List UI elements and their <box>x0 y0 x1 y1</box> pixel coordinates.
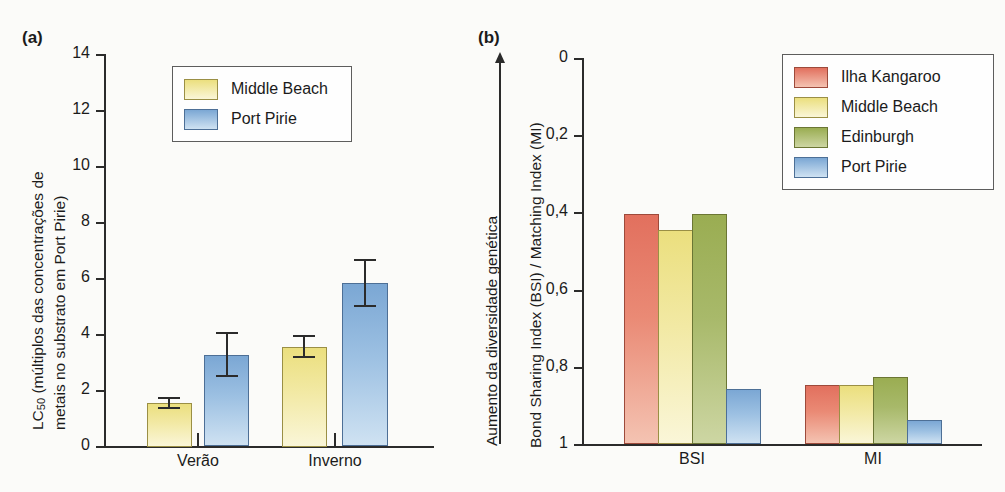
legend-label-port-pirie: Port Pirie <box>231 110 297 128</box>
bar-mi-ilha-kangaroo <box>805 385 840 444</box>
legend-item-port-pirie[interactable]: Port Pirie <box>184 104 337 134</box>
bar-inverno-port-pirie <box>342 283 388 446</box>
panel-b-ytick-1 <box>574 444 583 446</box>
panel-a-ytick-2 <box>96 390 105 392</box>
panel-b-yticklabel-0.6: 0,6 <box>520 280 568 298</box>
bar-inverno-middle-beach <box>282 347 327 447</box>
panel-a-xticklabel-inverno: Inverno <box>285 452 385 470</box>
panel-a-yticklabel-10: 10 <box>54 156 90 174</box>
legend-item-ilha-kangaroo[interactable]: Ilha Kangaroo <box>794 62 979 92</box>
panel-b-yticklabel-0.8: 0,8 <box>520 357 568 375</box>
panel-a-yticklabel-0: 0 <box>54 436 90 454</box>
panel-b-yticklabel-0: 0 <box>520 48 568 66</box>
panel-b-ytick-0 <box>574 58 583 60</box>
panel-a: (a) LC50 (múltiplos das concentrações de… <box>0 0 460 492</box>
panel-b-ytick-0.6 <box>574 290 583 292</box>
errorbar-verao-port-pirie <box>216 332 238 377</box>
bar-bsi-port-pirie <box>726 389 761 444</box>
panel-a-ytick-4 <box>96 334 105 336</box>
figure-canvas: (a) LC50 (múltiplos das concentrações de… <box>0 0 1005 492</box>
bar-mi-edinburgh <box>873 377 908 444</box>
bar-bsi-ilha-kangaroo <box>624 214 659 444</box>
bar-bsi-middle-beach <box>658 230 693 444</box>
panel-b-x-axis <box>582 444 982 446</box>
panel-a-ytick-10 <box>96 166 105 168</box>
panel-b-y-axis <box>582 58 584 446</box>
panel-a-ytick-8 <box>96 222 105 224</box>
legend-label-edinburgh: Edinburgh <box>841 128 914 146</box>
panel-b-ytick-0.4 <box>574 212 583 214</box>
legend-item-port-pirie-b[interactable]: Port Pirie <box>794 152 979 182</box>
legend-swatch-middle-beach-b <box>794 97 828 118</box>
panel-a-yticklabel-14: 14 <box>54 44 90 62</box>
ylabel-lc-rest: (múltiplos das concentrações de <box>29 171 46 398</box>
panel-a-yticklabel-12: 12 <box>54 100 90 118</box>
panel-a-legend: Middle Beach Port Pirie <box>172 66 352 142</box>
panel-b-xticklabel-bsi: BSI <box>642 450 742 468</box>
panel-b-label: (b) <box>478 28 500 48</box>
panel-b-increase-arrow-icon <box>494 52 506 444</box>
legend-item-edinburgh[interactable]: Edinburgh <box>794 122 979 152</box>
panel-a-yticklabel-4: 4 <box>54 324 90 342</box>
legend-label-middle-beach: Middle Beach <box>231 80 328 98</box>
panel-a-xticklabel-verao: Verão <box>148 452 248 470</box>
panel-b-yticklabel-1: 1 <box>520 434 568 452</box>
panel-a-label: (a) <box>22 28 43 48</box>
panel-b-ytick-0.8 <box>574 367 583 369</box>
panel-b-ytick-0.2 <box>574 135 583 137</box>
panel-b-yticklabel-0.4: 0,4 <box>520 202 568 220</box>
panel-a-minor-tick-verao <box>197 433 199 447</box>
legend-swatch-port-pirie <box>184 109 218 130</box>
errorbar-inverno-middle-beach <box>293 335 315 358</box>
legend-swatch-port-pirie-b <box>794 157 828 178</box>
errorbar-inverno-port-pirie <box>354 259 376 307</box>
panel-a-ytick-0 <box>96 446 105 448</box>
legend-swatch-edinburgh <box>794 127 828 148</box>
ylabel-lc-subscript: 50 <box>35 398 47 410</box>
panel-a-ytick-14 <box>96 54 105 56</box>
panel-a-yticklabel-2: 2 <box>54 380 90 398</box>
bar-mi-middle-beach <box>839 385 874 444</box>
panel-b-xticklabel-mi: MI <box>823 450 923 468</box>
panel-a-minor-tick-inverno <box>334 433 336 447</box>
legend-swatch-ilha-kangaroo <box>794 67 828 88</box>
panel-a-ytick-12 <box>96 110 105 112</box>
ylabel-lc: LC <box>29 410 46 430</box>
panel-a-ytick-6 <box>96 278 105 280</box>
panel-a-yticklabel-6: 6 <box>54 268 90 286</box>
panel-a-ylabel-line1: LC50 (múltiplos das concentrações de <box>28 171 48 430</box>
legend-item-middle-beach-b[interactable]: Middle Beach <box>794 92 979 122</box>
legend-swatch-middle-beach <box>184 79 218 100</box>
bar-bsi-edinburgh <box>692 214 727 444</box>
bar-mi-port-pirie <box>907 420 942 444</box>
legend-item-middle-beach[interactable]: Middle Beach <box>184 74 337 104</box>
panel-b-yticklabel-0.2: 0,2 <box>520 125 568 143</box>
legend-label-middle-beach-b: Middle Beach <box>841 98 938 116</box>
legend-label-port-pirie-b: Port Pirie <box>841 158 907 176</box>
panel-a-y-axis <box>104 54 106 448</box>
panel-a-yticklabel-8: 8 <box>54 212 90 230</box>
legend-label-ilha-kangaroo: Ilha Kangaroo <box>841 68 941 86</box>
errorbar-verao-middle-beach <box>158 397 180 409</box>
bar-verao-middle-beach <box>147 403 192 447</box>
panel-b-legend: Ilha Kangaroo Middle Beach Edinburgh Por… <box>782 54 994 190</box>
panel-b: (b) Aumento da diversidade genética Bond… <box>460 0 1005 492</box>
